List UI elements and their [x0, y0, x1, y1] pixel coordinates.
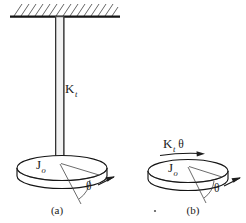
- panel-b: Ktθ Jo θ: [148, 136, 241, 217]
- shaft-stiffness-label: Kt: [65, 81, 78, 99]
- disk-a-inertia-subscript: o: [42, 165, 46, 175]
- shaft-stiffness-subscript: t: [75, 89, 78, 99]
- torsional-shaft: [56, 17, 65, 163]
- fixed-support-hatching-icon: [14, 4, 118, 16]
- restoring-torque-arrow-icon: [160, 151, 205, 156]
- restoring-torque-label: Ktθ: [163, 136, 184, 154]
- panel-a: Kt Jo θ: [10, 4, 120, 217]
- disk-a: [17, 156, 107, 189]
- torsional-vibration-figure: Kt Jo θ: [0, 0, 246, 223]
- disk-b-inertia-subscript: o: [174, 168, 178, 178]
- disk-a-angle-label: θ: [86, 180, 92, 192]
- figure-canvas: Kt Jo θ: [0, 0, 246, 223]
- panel-b-caption: (b): [187, 204, 200, 217]
- restoring-torque-angle: θ: [178, 138, 184, 150]
- stray-dot: [154, 210, 156, 212]
- panel-a-caption: (a): [51, 204, 64, 217]
- disk-a-rotation-arrow-icon: [98, 176, 115, 185]
- restoring-torque-subscript: t: [173, 144, 176, 154]
- disk-b-angle-label: θ: [214, 182, 220, 194]
